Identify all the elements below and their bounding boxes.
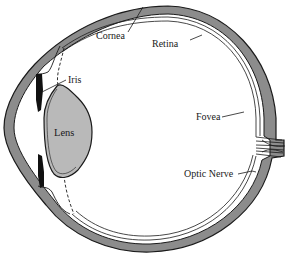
eye-diagram: Cornea Retina Iris Lens Fovea Optic Nerv… [0,0,286,255]
label-fovea: Fovea [196,111,221,122]
label-iris: Iris [68,74,81,85]
label-cornea: Cornea [96,30,125,41]
label-lens: Lens [54,127,74,138]
label-retina: Retina [152,38,179,49]
label-optic-nerve: Optic Nerve [184,168,234,179]
